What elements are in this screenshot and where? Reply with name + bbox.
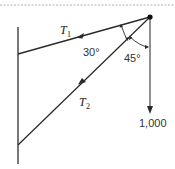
t1-subscript: 1 <box>67 30 71 39</box>
joint-dot <box>147 14 152 19</box>
angle-45-label: 45° <box>124 52 141 64</box>
weight-label: 1,000 <box>139 117 167 129</box>
t1-arrowhead <box>76 33 84 39</box>
t2-subscript: 2 <box>86 102 90 111</box>
weight-arrowhead <box>147 106 153 114</box>
force-diagram: T 1 T 2 30° 45° 1,000 <box>0 0 175 169</box>
angle-30-label: 30° <box>83 46 100 58</box>
